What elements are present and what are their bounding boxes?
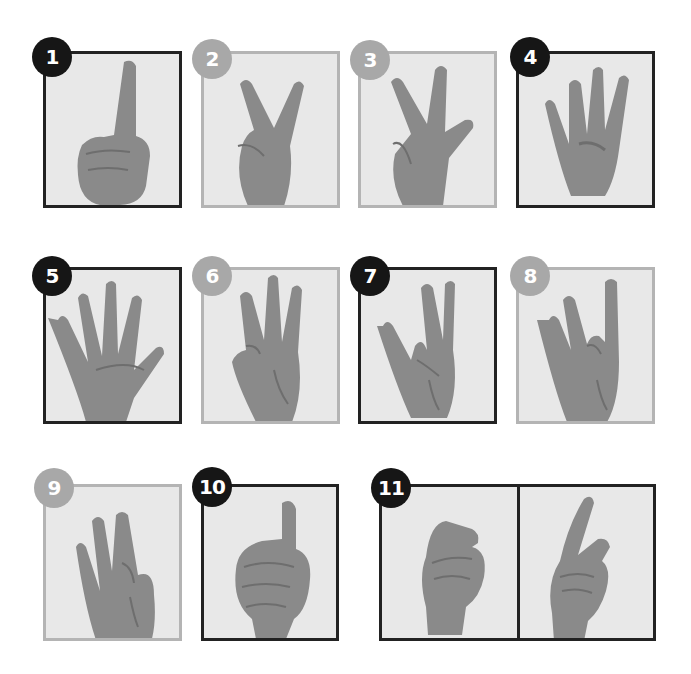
number-badge-10: 10: [192, 467, 232, 507]
hand-two-fingers-icon: [204, 54, 337, 205]
number-badge-4: 4: [510, 37, 550, 77]
panel-divider: [517, 487, 520, 638]
hand-nine-icon: [46, 487, 179, 638]
number-badge-9: 9: [34, 468, 74, 508]
gesture-panel-1: [43, 51, 182, 208]
hand-open-palm-icon: [46, 270, 179, 421]
number-badge-5: 5: [32, 256, 72, 296]
gesture-panel-9: [43, 484, 182, 641]
number-badge-11: 11: [371, 468, 411, 508]
hand-six-icon: [204, 270, 337, 421]
number-badge-8: 8: [510, 256, 550, 296]
hand-one-finger-icon: [46, 54, 179, 205]
gesture-panel-10: [201, 484, 339, 641]
hand-thumbs-up-icon: [204, 487, 336, 638]
number-badge-3: 3: [350, 40, 390, 80]
number-badge-2: 2: [192, 39, 232, 79]
hand-four-fingers-icon: [519, 54, 652, 205]
number-badge-7: 7: [350, 256, 390, 296]
number-badge-6: 6: [192, 256, 232, 296]
number-badge-1: 1: [32, 37, 72, 77]
gesture-panel-11: [379, 484, 656, 641]
